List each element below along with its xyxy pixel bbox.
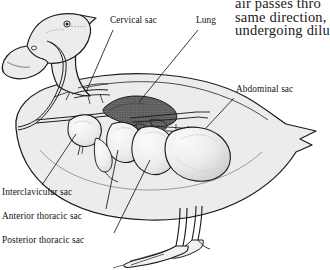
- label-lung: Lung: [196, 15, 216, 25]
- label-posterior-thoracic-sac: Posterior thoracic sac: [2, 235, 84, 245]
- label-cervical-sac: Cervical sac: [110, 15, 157, 25]
- label-anterior-thoracic-sac: Anterior thoracic sac: [2, 211, 82, 221]
- duck-anatomy-illustration: [0, 0, 330, 270]
- page-text-excerpt: air passes thro same direction, undergoi…: [235, 0, 330, 38]
- excerpt-line-2: same direction,: [235, 11, 330, 25]
- duck-head: [2, 14, 90, 79]
- excerpt-line-1: air passes thro: [235, 0, 330, 11]
- label-abdominal-sac: Abdominal sac: [236, 84, 293, 94]
- excerpt-line-3: undergoing dilu: [235, 24, 330, 38]
- figure-page: Cervical sac Lung Abdominal sac Intercla…: [0, 0, 330, 270]
- label-interclavicular-sac: Interclavicular sac: [2, 187, 72, 197]
- duck-eye: [64, 21, 70, 27]
